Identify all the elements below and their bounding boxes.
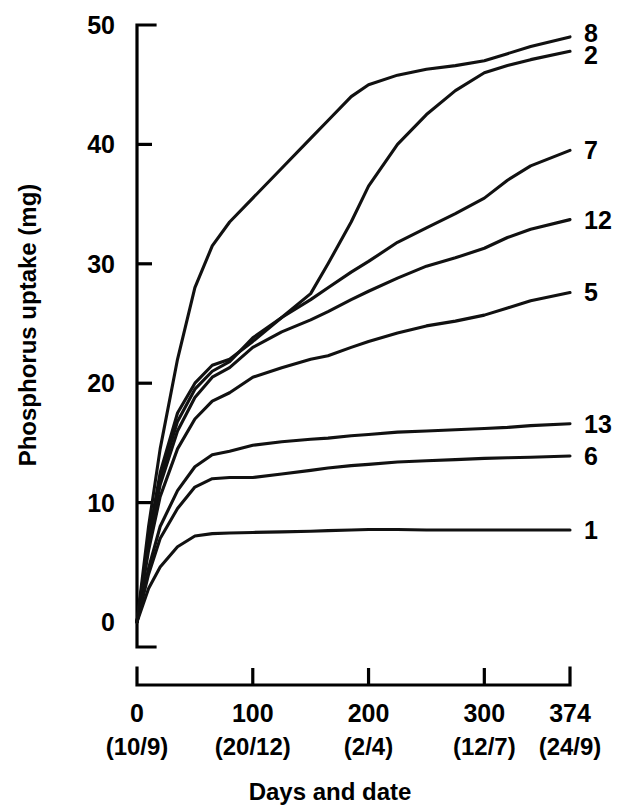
- y-tick-label: 50: [87, 11, 115, 39]
- series-line-12: [137, 220, 570, 622]
- y-axis-title: Phosphorus uptake (mg): [14, 184, 41, 467]
- y-tick-label: 30: [87, 250, 115, 278]
- series-label-6: 6: [584, 442, 598, 470]
- series-label-5: 5: [584, 278, 598, 306]
- y-tick-label: 0: [101, 608, 115, 636]
- x-tick-date-label: (10/9): [106, 733, 169, 760]
- chart-figure: Phosphorus uptake (mg) 01020304050 82712…: [0, 0, 621, 811]
- y-tick-label: 10: [87, 489, 115, 517]
- x-axis-date-labels: (10/9)(20/12)(2/4)(12/7)(24/9): [106, 733, 602, 760]
- y-tick-label: 20: [87, 369, 115, 397]
- y-tick-label: 40: [87, 130, 115, 158]
- x-axis-title-text: Days and date: [249, 778, 412, 805]
- phosphorus-uptake-line-chart: Phosphorus uptake (mg) 01020304050 82712…: [0, 0, 621, 811]
- series-line-7: [137, 150, 570, 622]
- series-line-13: [137, 424, 570, 622]
- y-axis-title-text: Phosphorus uptake (mg): [14, 184, 41, 467]
- series-label-12: 12: [584, 206, 612, 234]
- y-axis-ticks: [137, 144, 152, 502]
- x-tick-label: 300: [463, 699, 505, 727]
- series-label-1: 1: [584, 516, 598, 544]
- x-tick-label: 0: [130, 699, 144, 727]
- series-label-7: 7: [584, 136, 598, 164]
- x-tick-label: 200: [348, 699, 390, 727]
- series-line-1: [137, 529, 570, 622]
- y-axis-tick-labels: 01020304050: [87, 11, 115, 636]
- x-tick-date-label: (20/12): [215, 733, 291, 760]
- series-end-labels: 8271251361: [584, 19, 612, 544]
- series-label-13: 13: [584, 410, 612, 438]
- x-axis-ticks: [253, 668, 485, 685]
- x-tick-date-label: (12/7): [453, 733, 516, 760]
- series-line-6: [137, 456, 570, 622]
- x-tick-date-label: (2/4): [344, 733, 393, 760]
- series-curves: [137, 37, 570, 622]
- x-axis-line: [137, 668, 570, 685]
- x-axis-tick-labels: 0100200300374: [130, 699, 591, 727]
- x-tick-label: 100: [232, 699, 274, 727]
- x-tick-label: 374: [549, 699, 591, 727]
- series-label-2: 2: [584, 41, 598, 69]
- x-tick-date-label: (24/9): [539, 733, 602, 760]
- x-axis: 0100200300374 (10/9)(20/12)(2/4)(12/7)(2…: [106, 668, 602, 760]
